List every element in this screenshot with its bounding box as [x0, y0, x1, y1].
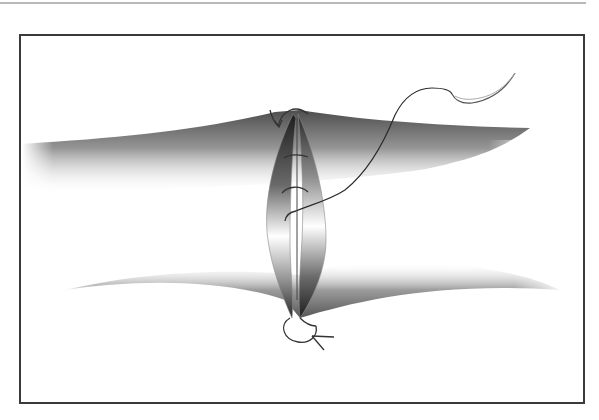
- suture-illustration: [0, 0, 599, 420]
- bottom-knot-loop: [284, 318, 334, 350]
- curved-needle: [452, 73, 515, 103]
